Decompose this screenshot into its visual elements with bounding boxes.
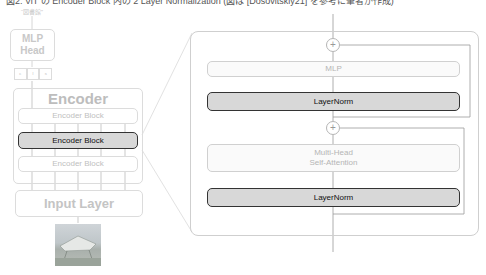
cls-token-row: c l s: [14, 68, 52, 80]
encoder-title: Encoder: [14, 90, 142, 108]
encoder-block-bottom: Encoder Block: [18, 156, 138, 172]
cls-token: s: [39, 68, 52, 80]
mlp-head-line2: Head: [11, 45, 54, 57]
output-label: “図書館”: [12, 7, 52, 16]
cls-token: c: [14, 68, 27, 80]
input-layer-label: Input Layer: [16, 191, 142, 216]
library-building-icon: [55, 224, 101, 266]
mhsa-label-line1: Multi-Head: [208, 148, 459, 158]
input-layer-box: Input Layer: [15, 190, 143, 217]
add-residual-bottom: +: [326, 121, 340, 135]
encoder-block-top: Encoder Block: [18, 108, 138, 124]
mhsa-label-line2: Self-Attention: [208, 158, 459, 168]
encoder-block-highlighted: Encoder Block: [18, 132, 138, 149]
mlp-layer: MLP: [207, 61, 460, 77]
multi-head-self-attention-layer: Multi-Head Self-Attention: [207, 144, 460, 172]
layernorm-top: LayerNorm: [207, 92, 460, 111]
add-residual-top: +: [326, 38, 340, 52]
mlp-head-line1: MLP: [11, 33, 54, 45]
cls-token: l: [27, 68, 40, 80]
layernorm-bottom: LayerNorm: [207, 188, 460, 207]
figure-caption: 図2: ViT の Encoder Block 内の 2 Layer Norma…: [6, 0, 394, 7]
input-image: [55, 224, 101, 266]
mlp-head-box: MLP Head: [10, 29, 55, 61]
